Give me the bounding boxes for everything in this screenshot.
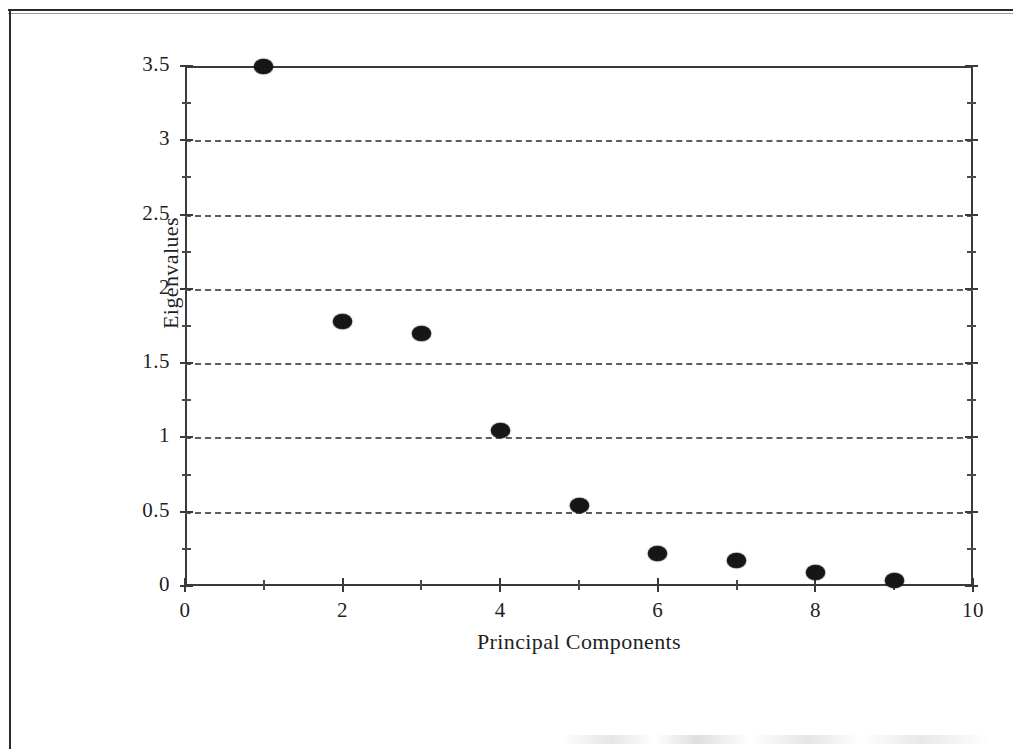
data-point: [333, 314, 352, 329]
y-axis-tick: [965, 436, 978, 438]
y-tick-label: 3: [100, 126, 170, 151]
y-tick-label: 3.5: [100, 52, 170, 77]
gridline: [185, 215, 973, 217]
y-axis-minor-tick: [967, 548, 976, 550]
x-axis-tick: [342, 578, 344, 592]
x-axis-minor-tick: [263, 580, 265, 590]
x-tick-label: 6: [652, 598, 663, 623]
x-axis-title: Principal Components: [185, 629, 973, 655]
y-axis-minor-tick: [967, 399, 976, 401]
y-axis-minor-tick: [182, 102, 191, 104]
y-axis-tick: [180, 139, 193, 141]
y-axis-minor-tick: [182, 548, 191, 550]
y-tick-label: 0: [100, 572, 170, 597]
x-tick-label: 2: [337, 598, 348, 623]
data-point: [806, 565, 825, 580]
y-axis-tick: [180, 511, 193, 513]
x-axis-minor-tick: [420, 580, 422, 590]
x-tick-label: 8: [810, 598, 821, 623]
y-axis-minor-tick: [967, 251, 976, 253]
gridline: [185, 437, 973, 439]
y-axis-tick: [965, 65, 978, 67]
data-point: [885, 573, 904, 588]
x-axis-tick: [657, 578, 659, 592]
scree-plot-figure: 00.511.522.533.5 0246810 Principal Compo…: [0, 0, 1019, 751]
y-tick-label: 1: [100, 423, 170, 448]
x-axis-tick: [184, 578, 186, 592]
y-axis-tick: [180, 65, 193, 67]
y-axis-tick: [965, 362, 978, 364]
y-axis-tick: [180, 362, 193, 364]
y-axis-tick: [965, 139, 978, 141]
y-axis-title: Eigenvalues: [158, 198, 184, 348]
y-axis-minor-tick: [182, 176, 191, 178]
data-point: [412, 326, 431, 341]
y-tick-label: 1.5: [100, 349, 170, 374]
axis-spine-top: [185, 66, 973, 68]
gridline: [185, 363, 973, 365]
x-axis-minor-tick: [578, 580, 580, 590]
y-axis-minor-tick: [967, 102, 976, 104]
data-point: [254, 59, 273, 74]
y-axis-minor-tick: [182, 399, 191, 401]
scanned-page: 00.511.522.533.5 0246810 Principal Compo…: [0, 0, 1019, 751]
y-axis-minor-tick: [182, 474, 191, 476]
gridline: [185, 289, 973, 291]
x-axis-tick: [499, 578, 501, 592]
y-axis-tick: [180, 585, 193, 587]
y-axis-tick: [965, 288, 978, 290]
y-axis-tick: [965, 511, 978, 513]
x-axis-tick: [972, 578, 974, 592]
plot-area: [185, 66, 973, 586]
data-point: [570, 498, 589, 513]
data-point: [491, 423, 510, 438]
data-point: [727, 553, 746, 568]
y-tick-label: 0.5: [100, 498, 170, 523]
x-tick-label: 4: [495, 598, 506, 623]
x-tick-label: 0: [180, 598, 191, 623]
x-axis-tick: [814, 578, 816, 592]
y-axis-tick: [180, 436, 193, 438]
y-axis-minor-tick: [967, 474, 976, 476]
gridline: [185, 140, 973, 142]
y-axis-minor-tick: [967, 176, 976, 178]
x-tick-label: 10: [962, 598, 984, 623]
x-axis-minor-tick: [736, 580, 738, 590]
y-axis-tick: [965, 214, 978, 216]
y-axis-minor-tick: [967, 325, 976, 327]
data-point: [648, 546, 667, 561]
